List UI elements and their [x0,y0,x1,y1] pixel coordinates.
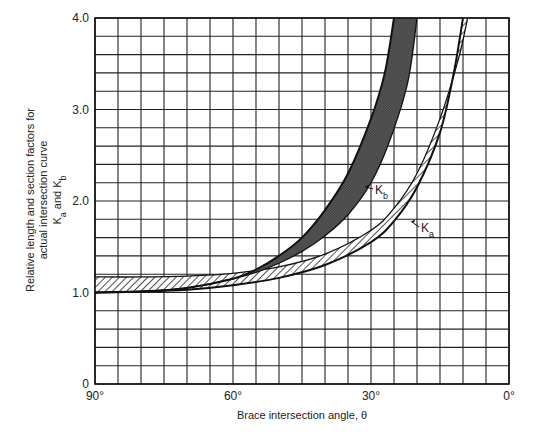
x-tick-label: 60° [224,389,242,403]
x-ticks: 90°60°30°0° [86,389,515,403]
y-axis-title-line-2: actual intersection curve [37,141,49,260]
x-tick-label: 30° [362,389,380,403]
x-tick-label: 0° [503,389,515,403]
y-axis-title: Relative length and section factors for … [24,108,68,292]
grid [95,18,509,384]
y-ticks: 01.02.03.04.0 [72,11,89,391]
x-axis-title: Brace intersection angle, θ [237,409,367,421]
y-axis-title-line-1: Relative length and section factors for [24,108,36,292]
y-tick-label: 1.0 [72,286,89,300]
y-axis-title-line-3: Ka and Kb [51,175,68,224]
series-label-a: Ka [421,221,434,239]
chart: 90°60°30°0° 01.02.03.04.0 KbKa Brace int… [0,0,534,434]
x-tick-label: 90° [86,389,104,403]
y-tick-label: 0 [82,377,89,391]
y-tick-label: 2.0 [72,194,89,208]
y-tick-label: 3.0 [72,103,89,117]
y-tick-label: 4.0 [72,11,89,25]
series-label-b: Kb [375,183,388,201]
